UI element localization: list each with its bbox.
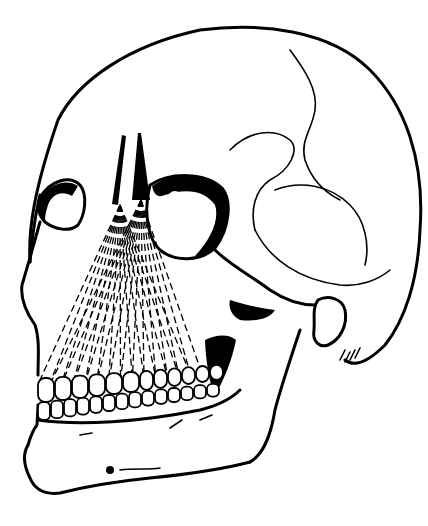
upper-tooth — [168, 368, 181, 386]
lower-tooth — [103, 395, 115, 411]
lower-tooth — [194, 385, 206, 398]
projection-line — [141, 200, 190, 373]
upper-tooth — [106, 373, 122, 394]
skull-illustration — [0, 0, 428, 526]
lower-tooth — [142, 391, 154, 406]
zygomatic-arch — [215, 250, 315, 305]
left-orbit-shadow — [39, 182, 78, 222]
temporal-line — [230, 133, 294, 230]
upper-tooth — [140, 371, 153, 390]
projection-line — [52, 205, 121, 379]
upper-tooth — [89, 374, 105, 396]
projection-line — [120, 205, 144, 375]
upper-tooth — [196, 366, 209, 382]
mandible-ramus — [250, 330, 300, 462]
chin-front — [28, 405, 38, 445]
projection-lines — [40, 200, 202, 380]
mental-foramen — [106, 466, 114, 474]
lower-tooth — [168, 388, 180, 402]
lower-tooth — [38, 402, 50, 420]
projection-line — [98, 200, 141, 378]
projection-line — [63, 205, 120, 379]
temporal-fossa — [255, 230, 390, 285]
lower-tooth — [207, 384, 219, 397]
projection-line — [75, 205, 121, 378]
mastoid-process — [314, 298, 346, 346]
lower-tooth — [155, 389, 167, 403]
upper-tooth — [154, 370, 167, 388]
upper-tooth — [55, 377, 71, 400]
cheek-shadow — [229, 300, 275, 321]
projection-apex-left — [112, 135, 126, 205]
lower-tooth — [77, 398, 89, 415]
upper-tooth — [72, 376, 88, 398]
upper-tooth — [182, 367, 195, 384]
lower-tooth — [129, 392, 141, 407]
coronal-suture — [290, 50, 340, 200]
projection-line — [120, 205, 121, 376]
projection-apex-right — [132, 133, 150, 200]
lower-tooth — [51, 401, 63, 419]
upper-tooth — [210, 365, 223, 380]
lower-tooth — [64, 399, 76, 416]
mastoid-hatch — [340, 348, 360, 362]
lower-tooth — [116, 394, 128, 410]
upper-tooth — [38, 378, 54, 402]
squamosal-suture — [275, 185, 367, 265]
upper-tooth — [123, 372, 139, 392]
right-orbit-shadow — [152, 176, 228, 257]
orbit-highlight — [168, 191, 182, 205]
lower-tooth — [90, 396, 102, 412]
lower-tooth — [181, 387, 193, 401]
projection-line — [141, 200, 202, 372]
